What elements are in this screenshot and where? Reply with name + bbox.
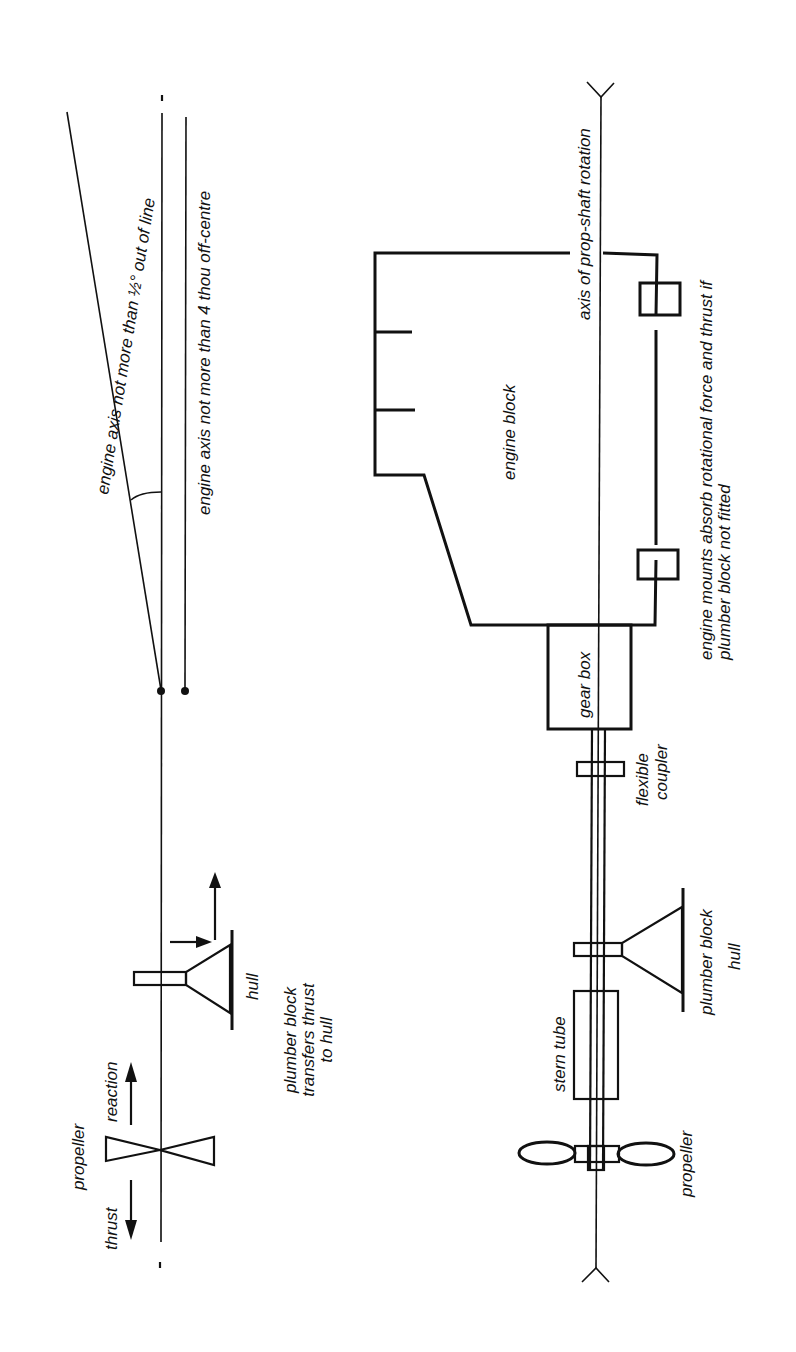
engine-mounts-label-2: plumber block not fitted xyxy=(715,484,734,661)
drivetrain-diagram: axis of prop-shaft rotation engine block… xyxy=(375,82,744,1282)
engine-mount-1 xyxy=(640,283,680,315)
engine-mount-2 xyxy=(638,550,678,579)
prop-shaft-axis-line xyxy=(596,97,601,1268)
propeller-blade-right-bottom xyxy=(618,1143,674,1165)
engine-block-label: engine block xyxy=(500,383,519,480)
propeller-blade-left-bottom xyxy=(519,1142,575,1164)
flexible-coupler-label: flexible xyxy=(633,753,652,806)
prop-shaft-edge-right xyxy=(603,729,605,1170)
propeller-label-top: propeller xyxy=(69,1123,88,1191)
angle-arc xyxy=(131,492,161,500)
flexible-coupler-label-2: coupler xyxy=(652,743,671,800)
shaft-axis-line xyxy=(161,113,162,1242)
propeller-blade-right xyxy=(160,1137,214,1165)
flexible-coupler xyxy=(577,762,624,776)
plumber-block-label-top: plumber block xyxy=(281,986,300,1094)
offset-dot xyxy=(181,687,189,695)
pivot-dot xyxy=(157,687,165,695)
arrow-head-in xyxy=(196,936,212,948)
reaction-arrow-head xyxy=(125,1062,137,1082)
thrust-label: thrust xyxy=(102,1206,121,1250)
axis-label: axis of prop-shaft rotation xyxy=(575,128,594,320)
arrow-head-out xyxy=(209,872,221,888)
propeller-label-bottom: propeller xyxy=(677,1130,696,1198)
engine-alignment-diagram: engine axis not more than ½° out of line… xyxy=(0,0,796,1352)
plumber-block-bearing xyxy=(134,972,186,985)
engine-mounts-label: engine mounts absorb rotational force an… xyxy=(697,279,716,660)
hull-label-bottom: hull xyxy=(725,942,744,970)
plumber-block-bracket-bottom xyxy=(622,907,682,993)
axis-end-fork-bottom xyxy=(582,1268,609,1282)
plumber-block-label-top-3: to hull xyxy=(317,1016,336,1063)
offset-axis-line xyxy=(185,117,186,690)
angle-tolerance-label: engine axis not more than ½° out of line xyxy=(93,197,159,496)
plumber-block-label-bottom: plumber block xyxy=(697,908,716,1016)
plumber-block-label-top-2: transfers thrust xyxy=(299,982,318,1097)
offset-tolerance-label: engine axis not more than 4 thou off-cen… xyxy=(195,191,214,515)
propeller-blade-left xyxy=(106,1137,160,1161)
gear-box-label: gear box xyxy=(575,651,594,718)
prop-shaft-edge-left xyxy=(590,729,592,1170)
stern-tube-label: stern tube xyxy=(550,1016,569,1092)
axis-end-fork-top xyxy=(587,82,614,97)
reaction-label: reaction xyxy=(102,1062,121,1122)
thrust-arrow-head xyxy=(125,1220,137,1240)
hull-label-top: hull xyxy=(243,972,262,1000)
alignment-diagram: engine axis not more than ½° out of line… xyxy=(67,95,336,1268)
plumber-block-bracket xyxy=(186,945,230,1013)
